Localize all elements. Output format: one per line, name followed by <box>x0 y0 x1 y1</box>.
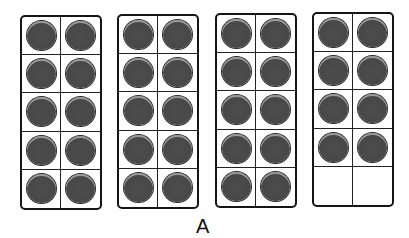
counter-icon <box>358 56 387 85</box>
frame-cell <box>314 129 353 167</box>
counter-icon <box>66 174 95 203</box>
counter-icon <box>261 172 290 201</box>
ten-frame-3 <box>215 13 297 208</box>
counter-icon <box>27 21 56 50</box>
counter-icon <box>124 96 153 125</box>
counter-icon <box>222 19 251 48</box>
frame-cell <box>158 131 197 169</box>
frame-cell <box>353 52 392 90</box>
frame-cell <box>256 15 295 53</box>
frame-cell <box>353 90 392 128</box>
ten-frame-4 <box>312 12 394 207</box>
frame-cell <box>256 130 295 168</box>
figure-label: A <box>196 215 209 238</box>
counter-icon <box>163 173 192 202</box>
counter-icon <box>124 20 153 49</box>
frame-cell <box>61 132 100 170</box>
frame-cell <box>217 15 256 53</box>
counter-icon <box>261 19 290 48</box>
counter-icon <box>222 95 251 124</box>
frame-cell <box>217 168 256 206</box>
frame-cell <box>256 91 295 129</box>
frame-cell <box>217 53 256 91</box>
counter-icon <box>319 94 348 123</box>
counter-icon <box>27 97 56 126</box>
frame-cell <box>217 130 256 168</box>
counter-icon <box>222 134 251 163</box>
frame-cell <box>353 167 392 205</box>
counter-icon <box>163 135 192 164</box>
frame-cell <box>61 93 100 131</box>
frame-cell <box>314 90 353 128</box>
frame-cell <box>61 17 100 55</box>
frame-cell <box>158 16 197 54</box>
frame-cell <box>119 169 158 207</box>
frame-cell <box>353 129 392 167</box>
frame-cell <box>158 54 197 92</box>
counter-icon <box>319 133 348 162</box>
counter-icon <box>124 135 153 164</box>
counter-icon <box>319 56 348 85</box>
counter-icon <box>66 97 95 126</box>
frame-cell <box>314 167 353 205</box>
counter-icon <box>163 20 192 49</box>
counter-icon <box>66 136 95 165</box>
counter-icon <box>163 96 192 125</box>
ten-frame-2 <box>117 14 199 209</box>
counter-icon <box>261 57 290 86</box>
frame-cell <box>22 170 61 208</box>
frame-cell <box>22 132 61 170</box>
counter-icon <box>261 95 290 124</box>
frame-cell <box>22 93 61 131</box>
counter-icon <box>358 18 387 47</box>
frame-cell <box>217 91 256 129</box>
frame-cell <box>61 170 100 208</box>
counter-icon <box>222 57 251 86</box>
counter-icon <box>358 94 387 123</box>
frame-cell <box>314 14 353 52</box>
counter-icon <box>124 58 153 87</box>
frame-cell <box>119 16 158 54</box>
frame-cell <box>353 14 392 52</box>
frame-cell <box>119 92 158 130</box>
frame-cell <box>22 55 61 93</box>
frame-cell <box>119 131 158 169</box>
counter-icon <box>27 59 56 88</box>
counter-icon <box>66 59 95 88</box>
counter-icon <box>261 134 290 163</box>
counter-icon <box>124 173 153 202</box>
counter-icon <box>27 174 56 203</box>
frame-cell <box>158 92 197 130</box>
frame-cell <box>256 168 295 206</box>
frame-cell <box>314 52 353 90</box>
frame-cell <box>158 169 197 207</box>
counter-icon <box>163 58 192 87</box>
ten-frame-1 <box>20 15 102 210</box>
counter-icon <box>66 21 95 50</box>
frame-cell <box>119 54 158 92</box>
frame-cell <box>22 17 61 55</box>
counter-icon <box>319 18 348 47</box>
counter-icon <box>358 133 387 162</box>
frame-cell <box>256 53 295 91</box>
counter-icon <box>222 172 251 201</box>
counter-icon <box>27 136 56 165</box>
frame-cell <box>61 55 100 93</box>
